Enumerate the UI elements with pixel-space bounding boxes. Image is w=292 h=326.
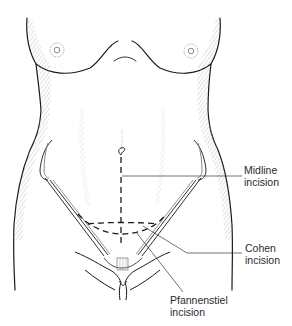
pfannenstiel-label-line1: Pfannenstiel xyxy=(170,294,228,306)
incision-diagram: Midline incision Cohen incision Pfannens… xyxy=(0,0,292,326)
flank-shading xyxy=(15,18,232,240)
cohen-label-line1: Cohen xyxy=(245,242,280,254)
nipples xyxy=(50,43,198,58)
cohen-label: Cohen incision xyxy=(245,242,280,266)
midline-label-line1: Midline xyxy=(244,164,279,176)
midline-label: Midline incision xyxy=(244,164,279,188)
cohen-label-line2: incision xyxy=(245,254,280,266)
pfannenstiel-label-line2: incision xyxy=(170,306,228,318)
pelvic-landmarks xyxy=(40,140,206,256)
midline-label-line2: incision xyxy=(244,176,279,188)
torso-illustration xyxy=(0,0,292,326)
pfannenstiel-label: Pfannenstiel incision xyxy=(170,294,228,318)
cohen-incision xyxy=(88,223,158,225)
pubic-region xyxy=(75,252,170,300)
